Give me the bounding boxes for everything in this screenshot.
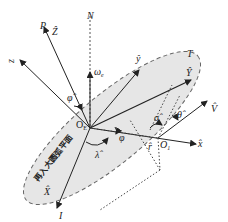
- great-circle-diagram: N P Ẑ z ωe ŷ Ŷ T V̂ x̂ X̂ I OE O1 φ̂ φ λ…: [0, 0, 228, 222]
- x-hat-label: x̂: [197, 138, 203, 149]
- entry-point-label: I: [58, 210, 63, 221]
- y-hat-label: ŷ: [135, 53, 141, 64]
- z-hat-vector: [44, 27, 90, 128]
- omega-label: ωe: [94, 66, 104, 78]
- z-vector: [20, 60, 90, 128]
- pole-label: P: [39, 20, 46, 31]
- v-hat-label: V̂: [211, 102, 219, 114]
- north-label: N: [86, 10, 95, 21]
- X-hat-label: X̂: [43, 185, 51, 197]
- vehicle-origin-label: O1: [160, 139, 170, 151]
- phi-label: φ: [119, 132, 125, 143]
- phi-hat-label: φ̂: [67, 92, 77, 103]
- z-hat-label: Ẑ: [52, 26, 58, 37]
- r-hat-label: r̂: [148, 141, 152, 152]
- z-label: z: [5, 59, 16, 64]
